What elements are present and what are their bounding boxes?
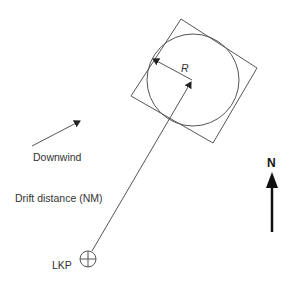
search-area-square <box>131 19 257 143</box>
radius-label: R <box>181 63 189 74</box>
lkp-marker-icon <box>80 251 96 267</box>
search-area-circle <box>147 34 239 126</box>
lkp-label: LKP <box>52 260 72 271</box>
drift-distance-arrow <box>92 82 191 251</box>
north-label: N <box>267 157 276 169</box>
diagram-canvas <box>0 0 291 282</box>
drift-distance-label: Drift distance (NM) <box>15 193 103 204</box>
search-area-diagram: R Downwind Drift distance (NM) LKP N <box>0 0 291 282</box>
downwind-label: Downwind <box>33 152 81 163</box>
north-arrow-icon <box>266 172 278 232</box>
downwind-arrow <box>32 121 80 146</box>
